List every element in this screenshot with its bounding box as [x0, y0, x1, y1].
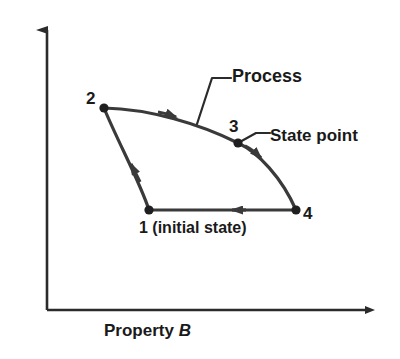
diagram-canvas: Property A Property B Process State poin…: [0, 0, 400, 359]
state-point-label-2: 2: [86, 90, 95, 107]
process-path-1-to-2: [104, 108, 149, 210]
annotation-state-point: State point: [270, 127, 358, 144]
state-point-label-3: 3: [229, 118, 238, 135]
axis-label-x-prefix: Property: [104, 321, 179, 340]
axis-label-x: Property B: [104, 322, 191, 339]
state-point-marker-4[interactable]: [291, 205, 300, 214]
state-point-label-1: 1 (initial state): [139, 220, 247, 236]
state-point-label-4: 4: [303, 205, 312, 222]
axis-label-x-symbol: B: [179, 321, 191, 340]
state-point-marker-3[interactable]: [233, 138, 242, 147]
property-diagram-graphic: [0, 0, 400, 359]
leader-line-process: [197, 78, 231, 124]
state-point-marker-1[interactable]: [144, 205, 153, 214]
process-path-2-to-3: [104, 108, 238, 143]
state-point-marker-2[interactable]: [99, 103, 108, 112]
leader-line-state-point: [238, 133, 270, 143]
process-path-3-to-4: [238, 143, 296, 210]
annotation-process: Process: [232, 67, 302, 85]
